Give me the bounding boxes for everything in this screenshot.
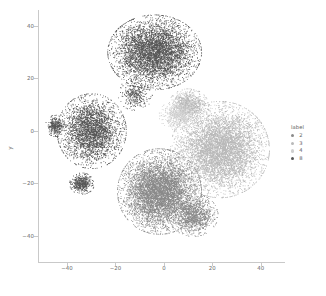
legend-item[interactable]: 3 [288, 140, 322, 148]
legend: label 2348 [288, 124, 322, 162]
x-tick-label: 20 [209, 265, 216, 271]
legend-title: label [291, 124, 322, 130]
legend-entries: 2348 [288, 132, 322, 162]
legend-item-label: 4 [299, 148, 302, 153]
legend-swatch-icon [291, 157, 294, 160]
legend-item-label: 8 [299, 156, 302, 161]
chart-screenshot: −40−2002040 −40−2002040 y label 2348 [0, 0, 326, 296]
legend-swatch-icon [291, 142, 294, 145]
y-tick-label: −20 [22, 180, 34, 186]
legend-swatch-icon [291, 134, 294, 137]
y-tick-label: 20 [27, 75, 34, 81]
x-tick-label: 0 [162, 265, 166, 271]
y-tick-label: 0 [30, 128, 34, 134]
scatter-plot-figure: −40−2002040 −40−2002040 y label 2348 [0, 0, 326, 296]
series-3 [168, 89, 269, 199]
legend-item-label: 3 [299, 141, 302, 146]
y-tick-label: 40 [27, 23, 34, 29]
y-axis-label: y [7, 146, 13, 149]
scatter-plot-area [38, 10, 285, 262]
x-tick-label: −40 [61, 265, 73, 271]
scatter-points [38, 10, 285, 262]
x-axis-spine [38, 262, 285, 263]
series-8 [46, 15, 202, 195]
legend-swatch-icon [291, 149, 294, 152]
legend-item[interactable]: 2 [288, 132, 322, 140]
x-tick-label: −20 [110, 265, 122, 271]
legend-item[interactable]: 4 [288, 147, 322, 155]
legend-item-label: 2 [299, 133, 302, 138]
x-tick-label: 40 [257, 265, 264, 271]
legend-item[interactable]: 8 [288, 155, 322, 163]
series-4 [159, 99, 199, 132]
y-tick-label: −40 [22, 233, 34, 239]
